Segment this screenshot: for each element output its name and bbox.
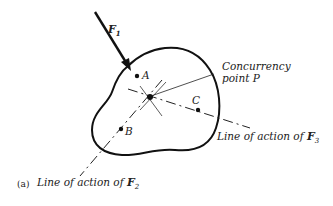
force-f1-arrow-shaft [95, 12, 127, 64]
force-f1-arrowhead [121, 58, 131, 71]
force-f1-label: F1 [107, 23, 121, 38]
construction-line [140, 82, 166, 110]
concurrency-leader-line [151, 74, 214, 96]
concurrent-forces-diagram: F1 A C B Concurrency point P Line of act… [0, 0, 333, 206]
point-a-dot [135, 74, 139, 78]
line-f3-label: Line of action of F3 [216, 130, 320, 145]
point-p-dot [147, 94, 153, 100]
construction-line [140, 86, 162, 116]
concurrency-label-line1: Concurrency [222, 60, 292, 72]
body-outline [92, 48, 219, 155]
panel-label: (a) [17, 179, 29, 189]
point-b-label: B [124, 125, 133, 137]
point-c-label: C [192, 94, 200, 106]
point-b-dot [119, 127, 123, 131]
line-f2-label: Line of action of F2 [36, 176, 140, 191]
point-a-label: A [141, 69, 150, 81]
concurrency-label-line2: point P [222, 72, 261, 84]
point-c-dot [196, 108, 200, 112]
